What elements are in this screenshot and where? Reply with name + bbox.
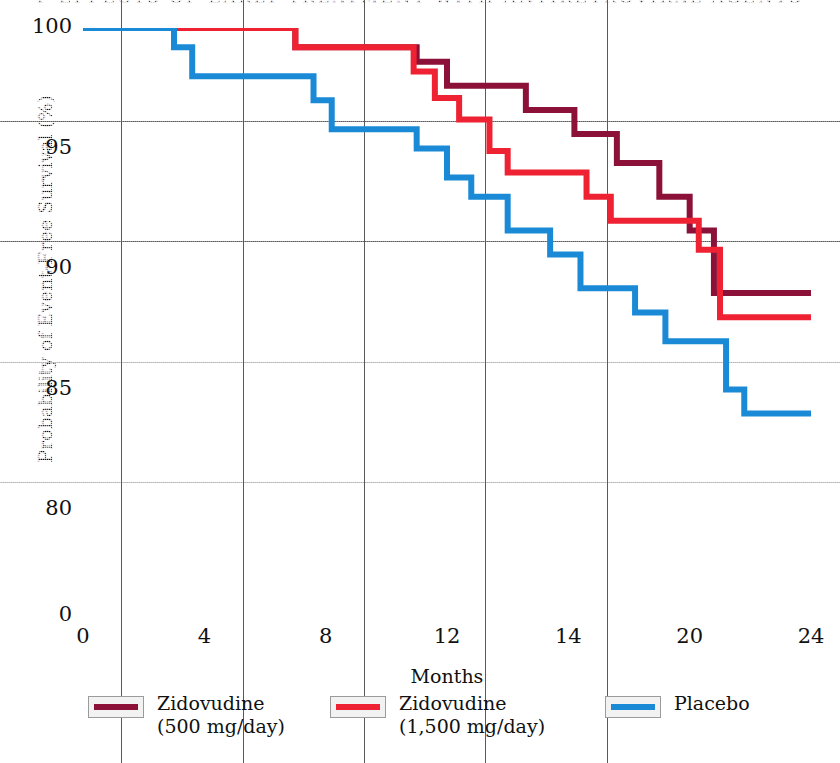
x-tick-12: 12: [417, 624, 477, 648]
legend-item-2[interactable]: Placebo: [605, 692, 750, 718]
y-tick-95: 95: [0, 135, 72, 159]
x-tick-24: 24: [781, 624, 840, 648]
legend-label-line2: (1,500 mg/day): [399, 715, 545, 738]
y-tick-0: 0: [0, 602, 72, 626]
legend-label-line1: Zidovudine: [399, 692, 545, 715]
y-tick-90: 90: [0, 255, 72, 279]
legend: Zidovudine(500 mg/day)Zidovudine(1,500 m…: [0, 692, 840, 760]
legend-label-0: Zidovudine(500 mg/day): [157, 692, 285, 738]
figure: P EFFECTS OF EARLY TREATMENT WITH ANTIRE…: [0, 0, 840, 763]
legend-label-line2: (500 mg/day): [157, 715, 285, 738]
x-tick-20: 20: [660, 624, 720, 648]
x-axis-label: Months: [83, 665, 811, 687]
legend-swatch-0: [88, 696, 144, 718]
x-tick-8: 8: [296, 624, 356, 648]
legend-label-1: Zidovudine(1,500 mg/day): [399, 692, 545, 738]
legend-item-0[interactable]: Zidovudine(500 mg/day): [88, 692, 285, 738]
y-tick-85: 85: [0, 376, 72, 400]
legend-swatch-1: [330, 696, 386, 718]
legend-label-line1: Zidovudine: [157, 692, 285, 715]
y-tick-80: 80: [0, 496, 72, 520]
figure-title: P EFFECTS OF EARLY TREATMENT WITH ANTIRE…: [0, 0, 840, 7]
survival-curves: [83, 28, 811, 557]
legend-swatch-2: [605, 696, 661, 718]
legend-color-bar: [94, 704, 138, 710]
x-tick-4: 4: [174, 624, 234, 648]
legend-label-line1: Placebo: [674, 692, 750, 715]
legend-item-1[interactable]: Zidovudine(1,500 mg/day): [330, 692, 545, 738]
legend-color-bar: [611, 704, 655, 710]
y-axis-label: Probability of Event-Free Survival (%): [34, 0, 56, 579]
y-tick-100: 100: [0, 14, 72, 38]
legend-label-2: Placebo: [674, 692, 750, 715]
x-tick-0: 0: [53, 624, 113, 648]
legend-color-bar: [336, 704, 380, 710]
x-tick-14: 14: [538, 624, 598, 648]
